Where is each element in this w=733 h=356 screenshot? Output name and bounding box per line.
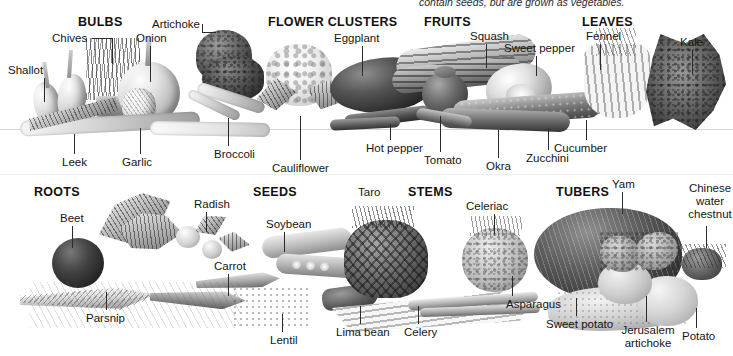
label-asparagus: Asparagus [506, 298, 561, 311]
label-tomato: Tomato [424, 154, 462, 167]
jerusalem-artichoke-texture [600, 232, 678, 272]
leader-broccoli [228, 118, 229, 146]
leader-onion [150, 46, 151, 82]
category-tubers: TUBERS [556, 186, 609, 199]
leader-tomato [440, 116, 441, 152]
label-squash: Squash [470, 30, 509, 43]
label-hot-pepper: Hot pepper [366, 142, 423, 155]
label-onion: Onion [136, 32, 167, 45]
leader-chinese-water-chestnut [706, 226, 707, 248]
taro-illustration [344, 220, 428, 298]
tomato-calyx [434, 66, 456, 78]
leader-okra [498, 130, 499, 158]
leader-kale [692, 50, 693, 74]
category-flower-clusters: FLOWER CLUSTERS [268, 16, 398, 29]
ground-rule-mid [0, 174, 733, 175]
leader-leek [74, 134, 75, 154]
leader-chives-h [92, 38, 112, 39]
label-okra: Okra [486, 160, 511, 173]
radish-illustration [176, 226, 200, 248]
label-sweet-pepper: Sweet pepper [504, 42, 575, 55]
label-broccoli: Broccoli [214, 148, 255, 161]
soybean-seed-3 [320, 262, 329, 271]
celeriac-texture [462, 228, 528, 292]
leader-celeriac [494, 214, 495, 234]
label-celery: Celery [404, 326, 437, 339]
taro-shoots [352, 206, 414, 228]
category-fruits: FRUITS [424, 16, 471, 29]
leader-sweet-potato [576, 298, 577, 316]
leader-squash [486, 44, 487, 68]
label-chives: Chives [52, 32, 87, 45]
leader-shallot [44, 78, 45, 102]
label-lima-bean: Lima bean [336, 326, 390, 339]
leader-jerusalem-artichoke [646, 296, 647, 322]
category-leaves: LEAVES [582, 16, 633, 29]
leader-chives-v [112, 38, 113, 64]
leader-celery [418, 306, 419, 324]
label-garlic: Garlic [122, 156, 152, 169]
label-lentil: Lentil [270, 334, 298, 347]
category-roots: ROOTS [34, 186, 80, 199]
root-hairs [30, 282, 240, 328]
leader-radish [206, 212, 207, 232]
label-artichoke: Artichoke [152, 18, 200, 31]
label-shallot: Shallot [8, 64, 43, 77]
leader-carrot [228, 274, 229, 296]
plate-caption: contain seeds, but are grown as vegetabl… [419, 0, 624, 8]
label-potato: Potato [682, 330, 715, 343]
leader-sweet-pepper [536, 56, 537, 76]
lentil-illustration [232, 286, 312, 328]
category-stems: STEMS [408, 186, 453, 199]
category-bulbs: BULBS [78, 16, 123, 29]
vegetable-illustration-plate: contain seeds, but are grown as vegetabl… [0, 0, 733, 356]
soybean-seed-2 [306, 261, 315, 270]
label-parsnip: Parsnip [86, 312, 125, 325]
radish-illustration-2 [202, 240, 222, 259]
leader-soybean [284, 232, 285, 252]
leader-cauliflower [300, 116, 301, 160]
leader-asparagus [512, 276, 513, 296]
soybean-seed [292, 260, 301, 269]
leader-parsnip [106, 292, 107, 310]
leek-shaft [150, 121, 270, 137]
label-leek: Leek [62, 156, 87, 169]
label-cauliflower: Cauliflower [272, 162, 329, 175]
leader-cucumber [586, 120, 587, 140]
leader-eggplant [362, 46, 363, 76]
leader-beet [72, 226, 73, 248]
label-taro: Taro [358, 186, 380, 199]
beet-illustration [52, 238, 104, 288]
label-yam: Yam [612, 178, 635, 191]
label-sweet-potato: Sweet potato [546, 318, 613, 331]
label-radish: Radish [194, 198, 230, 211]
label-cucumber: Cucumber [554, 142, 607, 155]
leader-zucchini [548, 128, 549, 150]
label-soybean: Soybean [266, 218, 311, 231]
leader-lima-bean [360, 306, 361, 324]
leader-artichoke-v [202, 24, 203, 32]
label-beet: Beet [60, 212, 84, 225]
label-jerusalem-artichoke: Jerusalem artichoke [618, 324, 678, 350]
chinese-water-chestnut-husk [678, 244, 726, 268]
label-chinese-water-chestnut: Chinese water chestnut [686, 182, 733, 221]
label-fennel: Fennel [586, 30, 621, 43]
category-seeds: SEEDS [253, 186, 297, 199]
label-carrot: Carrot [214, 260, 246, 273]
leader-lentil [282, 314, 283, 332]
leader-hot-pepper [390, 124, 391, 140]
leader-fennel [600, 44, 601, 70]
leader-artichoke-h [202, 32, 216, 33]
label-eggplant: Eggplant [334, 32, 379, 45]
label-celeriac: Celeriac [466, 200, 508, 213]
label-kale: Kale [680, 36, 703, 49]
leader-potato [696, 308, 697, 328]
leader-garlic [140, 128, 141, 154]
celeriac-roots [470, 216, 522, 236]
leader-yam [622, 192, 623, 214]
